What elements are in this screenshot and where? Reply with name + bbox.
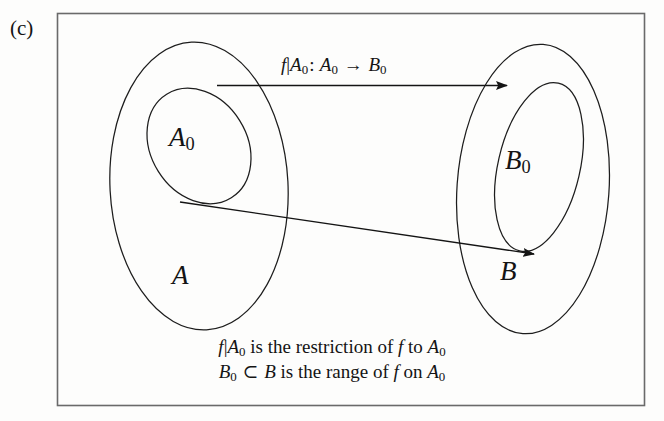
caption-line-1: f|A0 is the restriction of f to A0 — [0, 337, 664, 359]
caption1-target-base: A — [428, 336, 440, 357]
set-b0-ellipse — [480, 74, 599, 260]
set-b0-label: B0 — [505, 147, 531, 176]
arrow-label-source-base: A — [320, 54, 332, 75]
figure-panel: (c) A0 A B0 B f|A0: A0 → B0 f|A0 is the … — [0, 0, 664, 421]
arrow-label-source-sub: 0 — [331, 62, 337, 77]
panel-tag: (c) — [10, 18, 33, 39]
caption1-text-a: is the restriction of — [250, 336, 393, 357]
element-arrow — [180, 202, 534, 254]
set-a0-label-base: A — [169, 122, 186, 152]
caption2-target-sub: 0 — [439, 369, 445, 384]
set-a-ellipse — [103, 38, 296, 335]
set-a0-label-sub: 0 — [186, 134, 195, 154]
caption1-restrict-base: A — [227, 336, 239, 357]
arrow-label-colon: : — [308, 54, 315, 75]
caption2-text-b: on — [403, 361, 422, 382]
set-a0-label: A0 — [169, 124, 195, 153]
restriction-arrow-label: f|A0: A0 → B0 — [281, 55, 386, 77]
set-a0-ellipse — [126, 69, 272, 223]
caption2-sub-base: B — [219, 361, 231, 382]
set-a-label: A — [172, 262, 189, 289]
set-b0-label-base: B — [505, 145, 522, 175]
set-b-label: B — [500, 258, 517, 285]
caption1-restrict-sub: 0 — [239, 344, 245, 359]
caption1-fn2: f — [398, 336, 403, 357]
caption1-target-sub: 0 — [439, 344, 445, 359]
arrow-label-restrict-base: A — [290, 54, 302, 75]
caption2-super-base: B — [264, 361, 276, 382]
set-b0-label-sub: 0 — [522, 157, 531, 177]
caption-line-2: B0 ⊂ B is the range of f on A0 — [0, 362, 664, 384]
caption2-fn: f — [393, 361, 398, 382]
caption2-text-a: is the range of — [281, 361, 389, 382]
arrow-label-target-base: B — [368, 54, 380, 75]
caption1-text-b: to — [408, 336, 423, 357]
caption2-target-base: A — [427, 361, 439, 382]
set-b-ellipse — [447, 39, 619, 339]
subset-icon: ⊂ — [242, 361, 260, 382]
arrow-label-maps-to-icon: → — [343, 54, 364, 75]
arrow-label-target-sub: 0 — [380, 62, 386, 77]
caption2-sub-sub: 0 — [230, 369, 236, 384]
